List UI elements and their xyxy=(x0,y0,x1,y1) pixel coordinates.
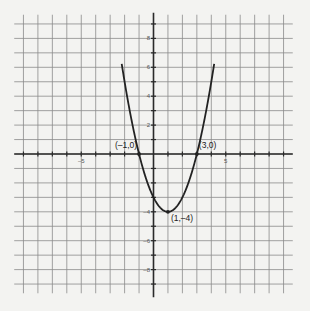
axes xyxy=(14,13,293,298)
x-tick-label: –5 xyxy=(78,158,85,164)
x-tick-label: 5 xyxy=(224,158,228,164)
parabola-graph: –558642–4–6–8 (–1,0)(3,0)(1,–4) xyxy=(0,0,310,311)
y-tick-label: –4 xyxy=(143,209,150,215)
key-point-marker xyxy=(195,152,199,156)
key-point-label: (1,–4) xyxy=(171,213,193,223)
key-point-label: (3,0) xyxy=(199,140,217,150)
key-point-marker xyxy=(137,152,141,156)
key-point-label: (–1,0) xyxy=(115,140,137,150)
key-point-marker xyxy=(166,210,170,214)
key-points: (–1,0)(3,0)(1,–4) xyxy=(115,140,217,223)
y-tick-label: –8 xyxy=(143,267,150,273)
y-tick-label: –6 xyxy=(143,238,150,244)
